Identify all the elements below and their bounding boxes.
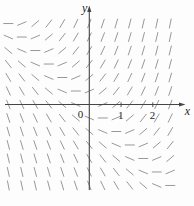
origin-label: 0 [78,108,84,120]
tick-label-x-1: 1 [118,109,124,121]
y-axis-label: y [81,1,88,15]
tick-label-x-2: 2 [150,109,156,121]
figure-container: 120xy [0,0,194,206]
slope-field-figure: 120xy [0,0,194,206]
figure-background [0,0,194,206]
x-axis-label: x [184,104,191,118]
